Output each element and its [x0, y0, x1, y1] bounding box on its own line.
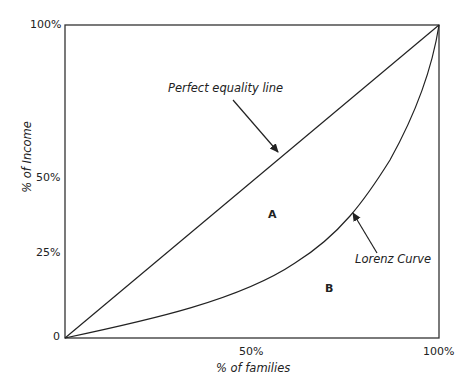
x-tick-50: 50% [239, 345, 263, 358]
lorenz-label: Lorenz Curve [355, 252, 431, 266]
y-tick-0: 0 [53, 330, 60, 343]
lorenz-chart [0, 0, 467, 384]
y-axis-label: % of Income [20, 121, 34, 193]
area-b-label: B [325, 282, 333, 295]
y-tick-25: 25% [36, 246, 60, 259]
equality-label: Perfect equality line [168, 81, 283, 95]
x-tick-100: 100% [423, 345, 454, 358]
area-a-label: A [268, 208, 277, 221]
x-axis-label: % of families [216, 361, 290, 375]
equality-line [65, 25, 439, 338]
lorenz-arrow [353, 213, 377, 253]
y-tick-100: 100% [30, 18, 61, 31]
y-tick-50: 50% [36, 171, 60, 184]
equality-arrow [233, 100, 278, 152]
